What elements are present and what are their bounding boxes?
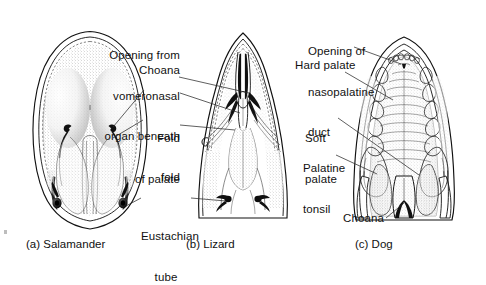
label-tonsil-line1: Palatine xyxy=(303,162,373,176)
label-nasopalatine-line1: Opening of xyxy=(308,45,398,59)
caption-dog: (c) Dog xyxy=(355,238,393,252)
label-choana-left: Choana xyxy=(100,64,180,78)
label-eustachian-line1: Eustachian xyxy=(141,230,191,244)
scan-artifact-mark xyxy=(4,230,7,234)
label-choana-dog: Choana xyxy=(343,212,413,226)
caption-salamander: (a) Salamander xyxy=(26,238,105,252)
label-hard-palate: Hard palate xyxy=(295,59,390,73)
label-eustachian-line2: tube xyxy=(141,271,191,285)
label-vomeronasal-line2: vomeronasal xyxy=(80,90,180,104)
label-eustachian-tube: Eustachian tube xyxy=(141,203,191,285)
label-fold-line1: Fold xyxy=(110,132,180,146)
label-palatine-tonsil: Palatine tonsil xyxy=(303,135,373,243)
caption-lizard: (b) Lizard xyxy=(186,238,235,252)
label-fold-line2: of palate xyxy=(110,173,180,187)
lizard-drawing xyxy=(199,33,288,218)
label-nasopalatine-line2: nasopalatine xyxy=(308,86,398,100)
label-fold-of-palate: Fold of palate xyxy=(110,105,180,213)
label-vomeronasal-line1: Opening from xyxy=(80,49,180,63)
